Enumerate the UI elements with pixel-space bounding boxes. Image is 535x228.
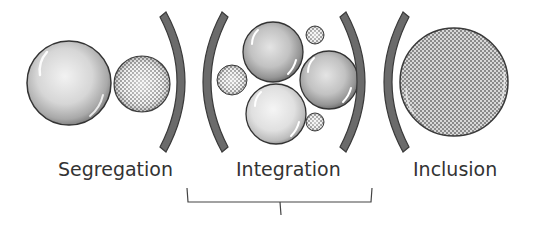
- checkered-large-circle: [400, 28, 508, 136]
- checker-shade: [114, 56, 170, 112]
- sphere-right: [300, 51, 358, 109]
- integration-group: [217, 22, 358, 144]
- checker-shade: [217, 65, 247, 95]
- label-inclusion: Inclusion: [413, 158, 497, 180]
- inclusion-group: [400, 28, 508, 136]
- label-integration: Integration: [236, 158, 341, 180]
- sphere-large: [27, 41, 111, 125]
- checker-shade: [306, 26, 324, 44]
- sphere-bottom: [246, 84, 306, 144]
- label-segregation: Segregation: [58, 158, 173, 180]
- integration-bracket: [187, 188, 372, 215]
- diagram-canvas: [0, 0, 535, 228]
- checker-shade: [306, 113, 324, 131]
- segregation-group: [27, 41, 170, 125]
- sphere-top: [243, 22, 303, 82]
